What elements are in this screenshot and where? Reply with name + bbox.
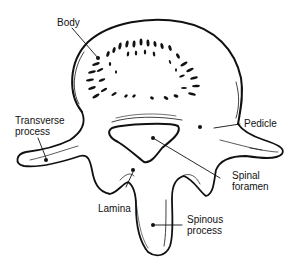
spinal-foramen: [109, 124, 179, 162]
transverse-dot: [44, 158, 48, 162]
pedicle-dot: [198, 125, 202, 129]
label-transverse-line1: Transverse: [15, 115, 65, 126]
spinous-dot: [151, 223, 155, 227]
label-pedicle: Pedicle: [244, 118, 277, 129]
label-body: Body: [57, 17, 80, 28]
vertebral-body: [72, 20, 242, 124]
label-spinous-line1: Spinous: [187, 214, 223, 225]
label-spinous-process: Spinous process: [187, 214, 223, 236]
label-spinous-line2: process: [187, 225, 223, 236]
trabecular-marks: [86, 39, 200, 101]
label-spinal-foramen: Spinal foramen: [232, 170, 269, 192]
spinal-foramen-dot: [151, 136, 155, 140]
body-leader: [72, 28, 98, 58]
label-lamina: Lamina: [98, 203, 131, 214]
spinal-foramen-leader: [153, 138, 220, 178]
label-spinal-line1: Spinal: [232, 170, 269, 181]
lamina-dot: [131, 168, 135, 172]
label-transverse-process: Transverse process: [15, 115, 65, 137]
label-transverse-line2: process: [15, 126, 65, 137]
label-spinal-line2: foramen: [232, 181, 269, 192]
pedicle-leader: [214, 124, 240, 128]
body-dot: [96, 56, 100, 60]
